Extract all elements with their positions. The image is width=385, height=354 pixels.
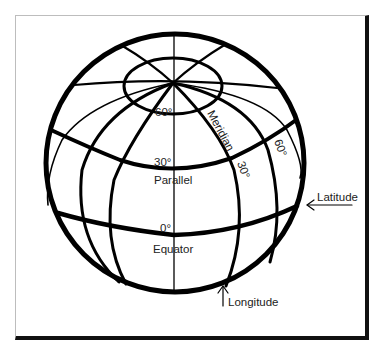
label-lat-0: 0° [160,222,171,234]
label-parallel: Parallel [154,174,192,186]
label-equator: Equator [153,243,193,255]
label-lon-30: 30° [235,160,252,180]
label-meridian: Meridian [205,108,236,153]
meridian-left-outer [48,83,173,205]
upper-cross-left [121,45,173,83]
polar-circle-60 [124,58,222,114]
label-lat-60: 60° [155,106,172,118]
label-lat-30: 30° [154,156,171,168]
globe-diagram: 60° 30° Parallel 0° Equator Meridian 30°… [0,0,385,354]
label-longitude: Longitude [228,296,279,308]
label-latitude: Latitude [317,191,358,203]
label-lon-60: 60° [272,138,289,158]
equator [58,206,297,235]
